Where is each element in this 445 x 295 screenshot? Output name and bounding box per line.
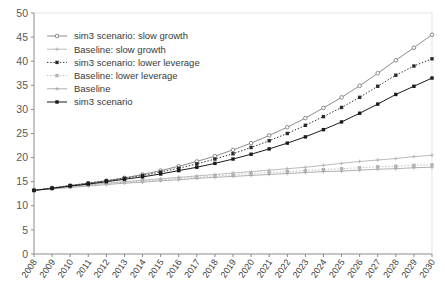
data-point (195, 162, 198, 165)
data-point (412, 64, 415, 67)
data-point (358, 166, 361, 169)
data-point (55, 61, 58, 64)
data-point (285, 125, 289, 129)
data-point (286, 132, 289, 135)
data-point (412, 46, 416, 50)
y-axis-tick-label: 20 (16, 151, 28, 163)
data-point (213, 162, 216, 165)
data-point (394, 58, 398, 62)
x-axis-tick-label: 2018 (200, 257, 220, 279)
data-point (358, 112, 361, 115)
data-point (231, 173, 234, 176)
data-point (322, 168, 325, 171)
y-axis-tick-label: 25 (16, 127, 28, 139)
legend-label: Baseline: slow growth (74, 44, 166, 55)
y-axis-tick-label: 30 (16, 103, 28, 115)
legend-label: sim3 scenario (74, 96, 133, 107)
x-axis-tick-label: 2019 (218, 257, 238, 279)
data-point (141, 179, 144, 182)
x-axis-tick-label: 2011 (74, 257, 93, 279)
x-axis-tick-label: 2030 (417, 257, 437, 279)
legend-label: Baseline: lower leverage (74, 70, 178, 81)
data-point (340, 96, 344, 100)
data-point (430, 57, 433, 60)
x-axis-tick-label: 2021 (255, 257, 275, 279)
data-point (267, 139, 270, 142)
data-point (159, 172, 162, 175)
data-point (376, 71, 380, 75)
x-axis-tick-label: 2010 (56, 257, 76, 279)
data-point (376, 165, 379, 168)
data-point (55, 74, 58, 77)
series-line (34, 167, 432, 190)
data-point (322, 128, 325, 131)
x-axis-tick-label: 2009 (38, 257, 58, 279)
data-point (394, 165, 397, 168)
legend-label: Baseline (74, 83, 110, 94)
y-axis-tick-label: 40 (16, 55, 28, 67)
data-point (177, 177, 180, 180)
data-point (249, 141, 253, 145)
data-point (430, 163, 433, 166)
data-point (430, 76, 433, 79)
x-axis-tick-label: 2023 (291, 257, 311, 279)
legend-label: sim3 scenario: lower leverage (74, 57, 200, 68)
x-axis-tick-label: 2017 (182, 257, 202, 279)
data-point (430, 33, 434, 37)
data-point (249, 153, 252, 156)
y-axis-tick-label: 0 (22, 248, 28, 260)
y-axis-tick-label: 15 (16, 175, 28, 187)
data-point (55, 34, 59, 38)
x-axis-tick-label: 2016 (164, 257, 184, 279)
x-axis-tick-label: 2014 (128, 257, 148, 279)
data-point (50, 187, 53, 190)
data-point (340, 106, 343, 109)
y-axis-tick-label: 10 (16, 199, 28, 211)
data-point (213, 174, 216, 177)
data-point (231, 157, 234, 160)
data-point (322, 106, 326, 110)
data-point (304, 135, 307, 138)
y-axis-tick-label: 5 (22, 224, 28, 236)
x-axis-tick-label: 2025 (327, 257, 347, 279)
data-point (105, 180, 108, 183)
data-point (123, 180, 126, 183)
data-point (376, 102, 379, 105)
data-point (55, 100, 58, 103)
data-point (195, 166, 198, 169)
data-point (213, 157, 216, 160)
data-point (231, 148, 235, 152)
data-point (394, 73, 397, 76)
data-point (68, 184, 71, 187)
data-point (159, 178, 162, 181)
data-point (340, 120, 343, 123)
series-4 (32, 165, 434, 192)
chart-canvas: 5045403530252015105020082009201020112012… (0, 0, 445, 295)
data-point (267, 171, 270, 174)
x-axis-tick-label: 2027 (363, 257, 383, 279)
data-point (286, 141, 289, 144)
data-point (358, 96, 361, 99)
x-axis-tick-label: 2012 (92, 257, 112, 279)
y-axis-tick-label: 35 (16, 79, 28, 91)
data-point (32, 189, 35, 192)
data-point (394, 93, 397, 96)
x-axis-tick-label: 2013 (110, 257, 130, 279)
data-point (340, 167, 343, 170)
data-point (267, 147, 270, 150)
data-point (304, 169, 307, 172)
data-point (322, 115, 325, 118)
data-point (286, 170, 289, 173)
x-axis-tick-label: 2029 (399, 257, 419, 279)
data-point (358, 84, 362, 88)
data-point (123, 178, 126, 181)
data-point (304, 116, 308, 120)
legend: sim3 scenario: slow growthBaseline: slow… (47, 30, 200, 107)
data-point (195, 176, 198, 179)
x-axis-tick-label: 2015 (146, 257, 166, 279)
legend-label: sim3 scenario: slow growth (74, 30, 188, 41)
x-axis-tick-label: 2026 (345, 257, 365, 279)
data-point (412, 164, 415, 167)
data-point (412, 85, 415, 88)
data-point (87, 182, 90, 185)
